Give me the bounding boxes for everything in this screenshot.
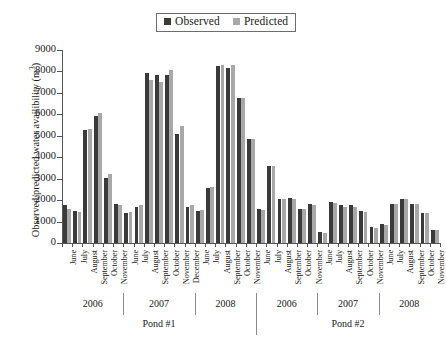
y-axis-tick: [57, 179, 62, 180]
x-axis-month-label: September: [233, 250, 242, 285]
x-axis-month-label: November: [120, 250, 129, 284]
x-axis-month-label: July: [274, 250, 283, 263]
bar-observed: [410, 204, 414, 243]
x-axis-month-label: September: [417, 250, 426, 285]
x-axis-month-label: November: [253, 250, 262, 284]
y-axis-tick-label: 0: [14, 236, 56, 247]
bar-predicted: [425, 213, 429, 243]
bar-predicted: [241, 98, 245, 243]
y-axis-tick: [57, 157, 62, 158]
bar-predicted: [415, 204, 419, 243]
x-axis-month-label: June: [69, 250, 78, 265]
bar-observed: [298, 209, 302, 243]
y-axis-tick-label: 8000: [14, 64, 56, 75]
bar-predicted: [333, 203, 337, 243]
year-label: 2006: [62, 298, 123, 309]
x-axis-month-label: October: [427, 250, 436, 276]
bar-observed: [155, 75, 159, 243]
x-axis-tick: [348, 243, 349, 247]
bar-predicted: [343, 207, 347, 243]
y-axis-tick: [57, 114, 62, 115]
bar-observed: [390, 204, 394, 243]
x-axis-tick: [317, 243, 318, 247]
x-axis-month-label: September: [100, 250, 109, 285]
y-axis-tick: [57, 222, 62, 223]
x-axis-tick: [420, 243, 421, 247]
bar-predicted: [261, 210, 265, 243]
bar-predicted: [88, 129, 92, 243]
x-axis-tick: [409, 243, 410, 247]
legend-entry-predicted: Predicted: [233, 16, 288, 28]
x-axis-month-label: November: [315, 250, 324, 284]
legend-label-predicted: Predicted: [244, 16, 288, 28]
y-axis-tick: [57, 93, 62, 94]
x-axis-tick: [174, 243, 175, 247]
x-axis-tick: [144, 243, 145, 247]
x-axis-month-label: September: [161, 250, 170, 285]
bar-predicted: [435, 230, 439, 243]
bar-predicted: [159, 82, 163, 243]
x-axis-month-label: August: [406, 250, 415, 273]
bar-predicted: [118, 205, 122, 243]
y-axis-tick-label: 2000: [14, 193, 56, 204]
bar-observed: [349, 205, 353, 243]
bar-observed: [359, 211, 363, 243]
bar-predicted: [282, 199, 286, 243]
y-axis-tick-label: 7000: [14, 86, 56, 97]
bar-predicted: [272, 166, 276, 243]
bar-observed: [206, 188, 210, 243]
x-axis-tick: [368, 243, 369, 247]
y-axis-tick: [57, 50, 62, 51]
x-axis-month-label: July: [212, 250, 221, 263]
legend-entry-observed: Observed: [164, 16, 220, 28]
bar-predicted: [394, 204, 398, 243]
bar-predicted: [149, 80, 153, 243]
bar-observed: [380, 224, 384, 243]
x-axis-tick: [123, 243, 124, 247]
year-group-row: 200620072008200620072008: [62, 297, 440, 313]
x-axis-month-label: September: [355, 250, 364, 285]
x-axis-line: [62, 243, 440, 244]
year-label: 2006: [256, 298, 317, 309]
x-axis-month-label: October: [304, 250, 313, 276]
x-axis-month-label: July: [141, 250, 150, 263]
bar-observed: [196, 211, 200, 243]
x-axis-month-label: November: [182, 250, 191, 284]
y-axis-tick: [57, 136, 62, 137]
legend-label-observed: Observed: [175, 16, 220, 28]
bar-observed: [267, 166, 271, 243]
bar-predicted: [200, 210, 204, 243]
year-separator: [379, 293, 380, 315]
bar-observed: [400, 199, 404, 243]
x-axis-tick: [154, 243, 155, 247]
bar-predicted: [364, 212, 368, 243]
x-axis-month-label: November: [376, 250, 385, 284]
bar-predicted: [312, 205, 316, 243]
pond-label: Pond #1: [62, 318, 256, 329]
x-axis-tick: [256, 243, 257, 247]
x-axis-tick: [205, 243, 206, 247]
x-axis-month-label: October: [172, 250, 181, 276]
year-separator: [195, 293, 196, 315]
x-axis-month-label: June: [202, 250, 211, 265]
year-separator: [317, 293, 318, 315]
bar-observed: [318, 232, 322, 243]
year-label: 2007: [123, 298, 195, 309]
bar-observed: [83, 130, 87, 243]
bar-predicted: [129, 212, 133, 243]
x-axis-tick: [328, 243, 329, 247]
bar-observed: [135, 207, 139, 243]
x-axis-tick: [195, 243, 196, 247]
x-axis-month-label: November: [437, 250, 446, 284]
year-label: 2008: [379, 298, 440, 309]
pond-separator: [256, 293, 257, 335]
bar-predicted: [251, 139, 255, 243]
pond-group-row: Pond #1Pond #2: [62, 317, 440, 333]
x-axis-tick: [399, 243, 400, 247]
bar-predicted: [323, 233, 327, 243]
bar-observed: [186, 207, 190, 243]
x-axis-month-label: October: [110, 250, 119, 276]
legend-swatch-observed: [164, 18, 171, 25]
x-axis-tick: [440, 243, 441, 247]
y-axis-tick-label: 1000: [14, 215, 56, 226]
